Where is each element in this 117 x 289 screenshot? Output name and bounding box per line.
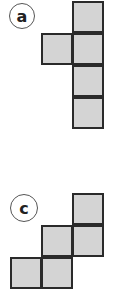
net-square [72, 1, 104, 33]
net-square [72, 33, 104, 65]
net-square [41, 257, 73, 289]
net-square [41, 33, 73, 65]
net-square [72, 65, 104, 97]
figure-label-a: a [9, 3, 35, 29]
net-square [10, 257, 42, 289]
net-square [72, 193, 104, 225]
net-square [72, 225, 104, 257]
figure-label-c: c [10, 194, 38, 222]
net-square [41, 225, 73, 257]
net-square [72, 97, 104, 129]
